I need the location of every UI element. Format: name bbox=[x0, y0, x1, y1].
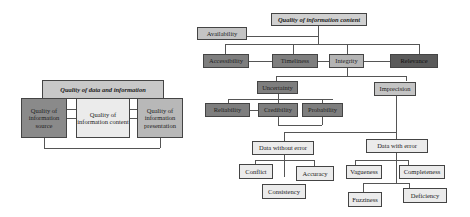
node-deficiency: Deficiency bbox=[403, 188, 447, 203]
node-accuracy: Accuracy bbox=[296, 166, 334, 181]
node-integrity: Integrity bbox=[329, 54, 364, 68]
node-timeliness: Timeliness bbox=[272, 54, 318, 68]
node-relevance: Relevance bbox=[390, 54, 438, 68]
node-availability: Availability bbox=[197, 27, 247, 40]
node-uncertainty: Uncertainty bbox=[257, 81, 298, 94]
node-fuzziness: Fuzziness bbox=[348, 192, 382, 207]
left-title-node: Quality of data and information bbox=[42, 80, 164, 99]
node-information-presentation: Quality of information presentation bbox=[137, 98, 183, 138]
node-information-source: Quality of information source bbox=[21, 98, 67, 138]
node-data-with-error: Data with error bbox=[366, 139, 428, 153]
node-completeness: Completeness bbox=[399, 165, 445, 179]
node-data-without-error: Data without error bbox=[252, 141, 314, 155]
right-title-node: Quality of information content bbox=[271, 13, 367, 26]
node-conflict: Conflict bbox=[239, 164, 273, 179]
node-consistency: Consistency bbox=[262, 184, 306, 199]
node-probability: Probability bbox=[302, 103, 343, 117]
node-vagueness: Vagueness bbox=[346, 165, 382, 179]
node-credibility: Credibility bbox=[258, 103, 298, 117]
node-imprecision: Imprecision bbox=[374, 82, 416, 96]
node-accessibility: Accessibility bbox=[203, 54, 249, 68]
node-information-content: Quality of information content bbox=[76, 98, 130, 138]
node-reliability: Reliability bbox=[205, 103, 250, 117]
